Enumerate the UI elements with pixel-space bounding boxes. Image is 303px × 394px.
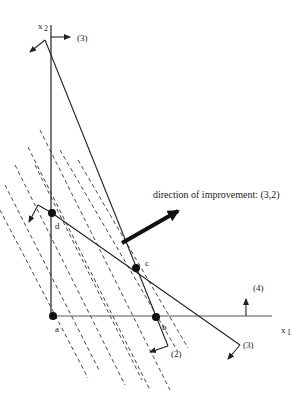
constraint-label-3-bottom: (3) (243, 340, 254, 350)
constraint-label-2: (2) (171, 349, 182, 359)
constraint-normal-top (30, 40, 45, 52)
point-a (49, 312, 57, 320)
point-d-label: d (55, 221, 60, 231)
x2-axis-label: x (38, 21, 43, 31)
point-d (48, 209, 56, 217)
point-b-label: b (162, 322, 167, 332)
improvement-arrow (122, 211, 178, 243)
x1-axis-label: x (281, 325, 286, 335)
constraint-label-4: (4) (253, 283, 264, 293)
constraint-normal-d (29, 205, 38, 222)
constraint-normal-bottom-right (228, 345, 240, 359)
x1-axis-subscript: 1 (287, 328, 291, 337)
point-c (132, 264, 140, 272)
constraint-line-dc (52, 213, 240, 345)
point-a-label: a (55, 324, 59, 334)
point-c-label: c (145, 258, 149, 268)
lp-diagram: a b c d x 2 x 1 (3) (4) (2) (3) directio… (0, 0, 303, 394)
x2-axis-subscript: 2 (44, 24, 48, 33)
constraint-normal-b (150, 346, 168, 352)
constraint-label-top: (3) (77, 33, 88, 43)
point-b (152, 313, 160, 321)
improvement-label: direction of improvement: (3,2) (153, 189, 280, 201)
iso-objective-lines (0, 130, 188, 390)
